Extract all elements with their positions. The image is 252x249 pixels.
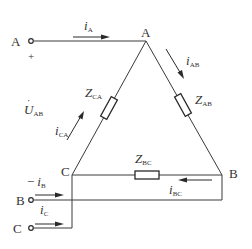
impedance-bc [135,171,159,179]
impedance-ab [175,94,192,117]
terminal-c-icon [29,226,34,231]
current-label-ica: iCA [55,123,68,139]
polarity-plus: + [28,50,34,62]
current-label-ic: iC [40,202,49,218]
node-label-b: B [229,166,238,181]
node-label-c: C [61,164,70,179]
delta-circuit-diagram: A C B A + B C iA iAB ZAB ZCA UAB · iCA Z… [0,0,252,249]
terminal-a-icon [29,39,34,44]
current-label-iab: iAB [186,53,200,69]
arrow-ib-icon [35,193,64,198]
impedance-label-zab: ZAB [195,92,212,108]
current-label-ia: iA [84,18,93,34]
current-label-ib: −iB [27,174,46,190]
impedance-label-zca: ZCA [85,85,102,101]
arrow-ibc-icon [178,178,212,183]
impedance-label-zbc: ZBC [135,151,152,167]
terminal-label-b: B [16,193,25,208]
arrow-ic-icon [35,222,64,227]
voltage-dot: · [27,95,30,106]
impedance-ca [101,97,118,120]
arrow-ica-icon [67,111,84,140]
current-label-ibc: iBC [169,182,182,198]
arrow-ia-icon [73,35,110,40]
terminal-label-a: A [11,34,21,49]
terminal-label-c: C [13,221,22,236]
node-label-a: A [141,25,151,40]
arrow-iab-icon [166,49,184,79]
terminal-b-icon [29,198,34,203]
